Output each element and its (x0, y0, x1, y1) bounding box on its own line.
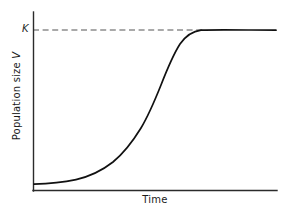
carrying-capacity-label: K (22, 24, 29, 34)
y-axis-label-variable: V (11, 51, 22, 58)
x-axis-label: Time (33, 195, 277, 205)
y-axis-label: Population size V (12, 51, 22, 140)
y-axis-label-text: Population size (11, 58, 22, 140)
logistic-growth-figure: Population size V Time K (0, 0, 284, 213)
plot-canvas (0, 0, 284, 213)
logistic-curve (34, 30, 276, 184)
